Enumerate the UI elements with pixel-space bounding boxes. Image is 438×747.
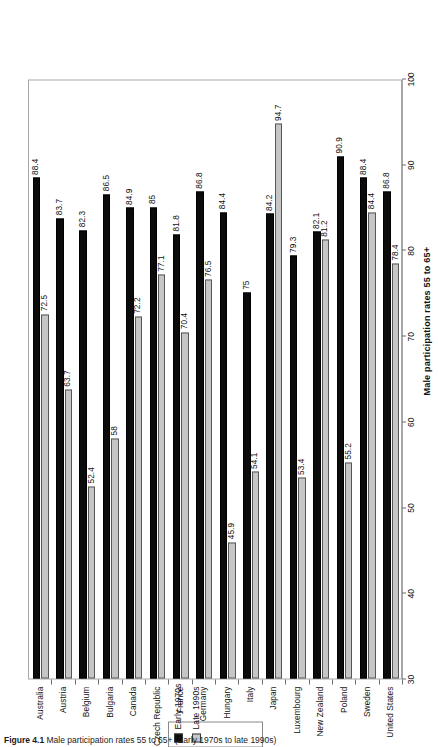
bar-value-label: 78.4	[391, 244, 399, 260]
value-tick-label: 90	[407, 160, 416, 169]
category-label: Italy	[246, 686, 254, 702]
bar-value-label: 86.8	[383, 172, 391, 188]
category-tick	[262, 679, 263, 684]
bar-value-label: 84.9	[126, 188, 134, 204]
bar-late-1990s	[392, 263, 399, 678]
category-tick	[355, 679, 356, 684]
bar-group: 88.484.4	[356, 80, 379, 678]
value-tick-label: 30	[407, 674, 416, 683]
value-tick-label: 60	[407, 417, 416, 426]
bar-early-1970s	[337, 156, 344, 678]
category-label: Austria	[59, 686, 67, 713]
figure-caption-label: Figure 4.1	[4, 735, 44, 745]
category-label: Sweden	[363, 686, 371, 717]
bar-late-1990s	[158, 274, 165, 678]
bar-value-label: 88.4	[32, 158, 40, 174]
bar-value-label: 86.8	[196, 172, 204, 188]
bar-early-1970s	[243, 292, 250, 678]
bar-early-1970s	[313, 231, 320, 678]
category-tick	[75, 679, 76, 684]
category-label: Bulgaria	[106, 686, 114, 717]
value-tick-label: 80	[407, 246, 416, 255]
bar-group: 81.870.4	[169, 80, 192, 678]
value-tick-label: 50	[407, 503, 416, 512]
category-label: Belgium	[82, 686, 90, 717]
chart-stage: Early 1970s Late 1990s Male participatio…	[0, 0, 438, 747]
bar-value-label: 72.2	[134, 297, 142, 313]
bar-group: 7554.1	[239, 80, 262, 678]
category-label: Poland	[339, 686, 347, 712]
category-tick	[379, 679, 380, 684]
bar-late-1990s	[111, 438, 118, 678]
bar-value-label: 63.7	[64, 370, 72, 386]
bar-value-label: 84.2	[266, 194, 274, 210]
category-label: Germany	[199, 686, 207, 721]
bar-group: 82.352.4	[76, 80, 99, 678]
bar-early-1970s	[220, 212, 227, 678]
bar-value-label: 72.5	[41, 294, 49, 310]
bar-value-label: 82.3	[79, 210, 87, 226]
category-tick	[168, 679, 169, 684]
bar-early-1970s	[173, 234, 180, 678]
category-tick	[122, 679, 123, 684]
bar-late-1990s	[65, 389, 72, 678]
bar-late-1990s	[252, 471, 259, 678]
bar-early-1970s	[103, 194, 110, 678]
bar-group: 79.353.4	[286, 80, 309, 678]
category-tick	[285, 679, 286, 684]
bar-value-label: 85	[149, 194, 157, 203]
bar-value-label: 54.1	[251, 452, 259, 468]
bars-container: 88.472.583.763.782.352.486.55884.972.285…	[29, 80, 401, 678]
bar-value-label: 90.9	[336, 137, 344, 153]
bar-value-label: 70.4	[181, 312, 189, 328]
bar-late-1990s	[181, 332, 188, 678]
bar-late-1990s	[368, 212, 375, 678]
bar-value-label: 88.4	[360, 158, 368, 174]
bar-value-label: 81.8	[173, 215, 181, 231]
category-label: Australia	[36, 686, 44, 719]
category-label: Luxembourg	[293, 686, 301, 733]
bar-value-label: 84.4	[219, 192, 227, 208]
bar-group: 86.558	[99, 80, 122, 678]
bar-early-1970s	[383, 191, 390, 678]
bar-value-label: 75	[243, 280, 251, 289]
bar-value-label: 76.5	[204, 260, 212, 276]
bar-late-1990s	[322, 239, 329, 678]
category-label: France	[176, 686, 184, 712]
figure-caption: Figure 4.1 Male participation rates 55 t…	[4, 735, 434, 745]
bar-value-label: 86.5	[102, 174, 110, 190]
bar-group: 83.763.7	[52, 80, 75, 678]
bar-value-label: 83.7	[56, 198, 64, 214]
value-tick-label: 40	[407, 589, 416, 598]
bar-value-label: 84.4	[368, 192, 376, 208]
bar-value-label: 45.9	[228, 522, 236, 538]
category-tick	[332, 679, 333, 684]
bar-late-1990s	[205, 279, 212, 678]
bar-group: 82.181.2	[310, 80, 333, 678]
value-tick-label: 70	[407, 331, 416, 340]
bar-group: 8577.1	[146, 80, 169, 678]
category-label: Hungary	[223, 686, 231, 718]
bar-value-label: 55.2	[345, 443, 353, 459]
bar-group: 90.955.2	[333, 80, 356, 678]
bar-early-1970s	[360, 177, 367, 678]
bar-late-1990s	[228, 542, 235, 678]
bar-group: 86.876.5	[193, 80, 216, 678]
bar-value-label: 53.4	[298, 458, 306, 474]
bar-late-1990s	[298, 477, 305, 678]
category-tick	[402, 679, 403, 684]
bar-early-1970s	[150, 207, 157, 678]
bar-group: 84.972.2	[123, 80, 146, 678]
category-label: New Zealand	[316, 686, 324, 736]
bar-group: 84.294.7	[263, 80, 286, 678]
bar-early-1970s	[266, 213, 273, 678]
category-label: Canada	[129, 686, 137, 716]
category-tick	[238, 679, 239, 684]
figure-caption-text: Male participation rates 55 to 65+ (Earl…	[44, 735, 276, 745]
bar-group: 84.445.9	[216, 80, 239, 678]
category-tick	[309, 679, 310, 684]
category-tick	[51, 679, 52, 684]
category-tick	[215, 679, 216, 684]
bar-value-label: 77.1	[158, 255, 166, 271]
bar-early-1970s	[79, 230, 86, 678]
